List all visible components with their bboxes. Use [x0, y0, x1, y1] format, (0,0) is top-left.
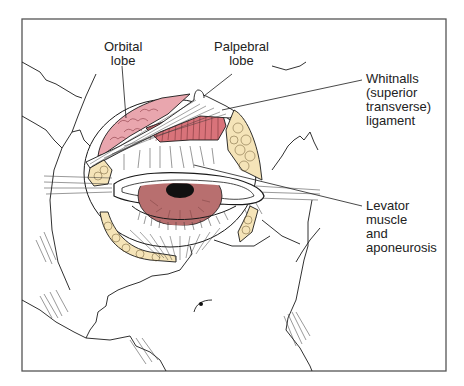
- pupil: [166, 182, 194, 198]
- small-eye-pupil: [199, 302, 203, 306]
- label-levator-muscle: Levator muscle and aponeurosis: [366, 199, 437, 255]
- label-whitnalls-ligament: Whitnalls (superior transverse) ligament: [366, 72, 431, 128]
- label-palpebral-lobe: Palpebral lobe: [214, 40, 269, 68]
- label-orbital-lobe: Orbital lobe: [104, 40, 142, 68]
